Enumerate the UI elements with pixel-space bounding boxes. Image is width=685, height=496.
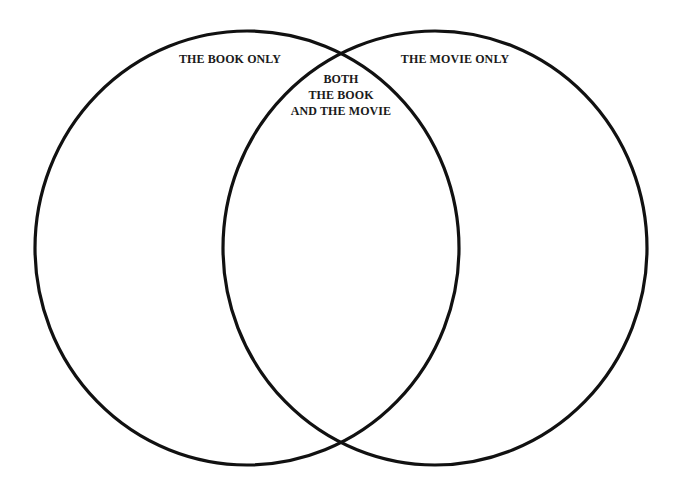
intersection-line-3: AND THE MOVIE <box>285 103 397 119</box>
book-only-label: THE BOOK ONLY <box>170 51 290 67</box>
intersection-line-2: THE BOOK <box>285 87 397 103</box>
intersection-label: BOTH THE BOOK AND THE MOVIE <box>285 71 397 119</box>
venn-diagram: THE BOOK ONLY THE MOVIE ONLY BOTH THE BO… <box>0 0 685 496</box>
intersection-line-1: BOTH <box>285 71 397 87</box>
movie-only-label: THE MOVIE ONLY <box>390 51 520 67</box>
